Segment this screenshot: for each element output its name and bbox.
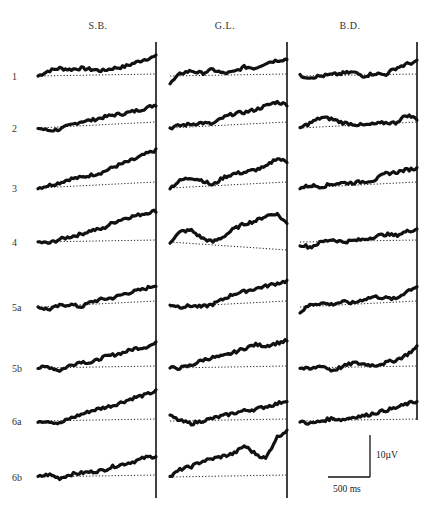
erp-waveform [38, 210, 156, 243]
erp-waveform [38, 456, 156, 479]
scale-amplitude-label: 10µV [376, 450, 398, 460]
row-label-6a: 6a [12, 416, 21, 427]
erp-waveform [38, 390, 156, 424]
erp-waveform [300, 287, 417, 313]
erp-waveform [300, 401, 417, 424]
erp-waveform [170, 159, 287, 189]
row-label-2: 2 [12, 123, 17, 134]
erp-waveform [300, 168, 417, 189]
column-title-bd: B.D. [340, 20, 361, 31]
row-label-4: 4 [12, 237, 17, 248]
scale-time-label: 500 ms [333, 484, 361, 494]
baseline-dotted [38, 419, 156, 421]
row-label-3: 3 [12, 183, 17, 194]
erp-waveform [170, 402, 287, 425]
row-label-1: 1 [12, 71, 17, 82]
baseline-dotted [170, 182, 287, 188]
column-title-gl: G.L. [215, 20, 235, 31]
row-label-5b: 5b [12, 363, 22, 374]
erp-waveform [170, 340, 287, 370]
baseline-dotted [170, 74, 287, 76]
baseline-dotted [38, 74, 156, 76]
erp-waveform [38, 105, 156, 131]
erp-waveform [300, 229, 417, 248]
erp-waveform [38, 149, 156, 189]
column-title-sb: S.B. [88, 20, 107, 31]
erp-waveform [300, 60, 417, 78]
erp-waveform [38, 286, 156, 310]
erp-waveform [170, 59, 287, 84]
baseline-dotted [170, 242, 287, 250]
baseline-dotted [38, 122, 156, 128]
erp-waveform [300, 115, 417, 128]
erp-waveform [170, 430, 287, 476]
erp-waveform [38, 55, 156, 76]
erp-waveform [170, 213, 287, 243]
erp-waveform [38, 342, 156, 371]
baseline-dotted [170, 475, 287, 477]
row-label-5a: 5a [12, 302, 21, 313]
erp-figure [0, 0, 431, 505]
row-label-6b: 6b [12, 472, 22, 483]
